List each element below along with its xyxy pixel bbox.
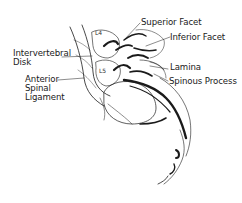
label-l4: L4 bbox=[95, 29, 102, 36]
label-lamina: Lamina bbox=[170, 62, 201, 72]
spine-diagram: Superior Facet Inferior Facet Interverte… bbox=[0, 0, 242, 203]
label-l5: L5 bbox=[99, 67, 106, 74]
label-intervertebral-disk-line2: Disk bbox=[13, 57, 31, 67]
label-inferior-facet: Inferior Facet bbox=[170, 32, 225, 42]
label-spinous-process: Spinous Process bbox=[169, 76, 237, 86]
label-anterior-spinal-ligament-line3: Ligament bbox=[25, 92, 65, 102]
label-superior-facet: Superior Facet bbox=[141, 17, 202, 27]
